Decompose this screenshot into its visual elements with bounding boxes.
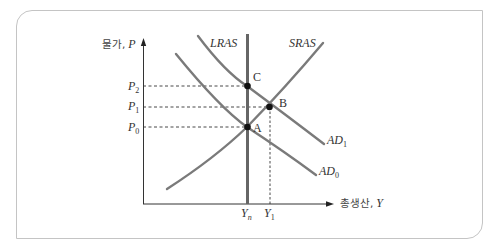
- point-b: [266, 104, 273, 111]
- ad1-label-base: AD: [326, 133, 343, 147]
- sras-label: SRAS: [289, 36, 316, 50]
- y-tick-p2-sub: 2: [135, 86, 139, 95]
- guide-lines: [143, 86, 270, 204]
- x-axis-label-korean: 총생산,: [340, 197, 373, 209]
- x-axis-label: 총생산,Y: [340, 196, 384, 210]
- y-axis-label-var: P: [127, 37, 136, 51]
- ad0-label-base: AD: [318, 164, 335, 178]
- ad0-label: AD0: [318, 164, 339, 180]
- y-tick-p1-sub: 1: [135, 106, 139, 115]
- y-axis-label-korean: 물가,: [102, 38, 125, 50]
- point-a-label: A: [253, 121, 262, 135]
- y-tick-p1: P1: [127, 99, 139, 115]
- y-axis-label: 물가,P: [102, 37, 136, 51]
- y-tick-p0-sub: 0: [135, 127, 139, 136]
- lras-label: LRAS: [209, 36, 237, 50]
- ad1-label-sub: 1: [343, 140, 347, 149]
- point-c-label: C: [253, 70, 261, 84]
- x-tick-y1: Y1: [264, 206, 275, 222]
- x-tick-yn-sub: n: [248, 213, 252, 222]
- point-a: [244, 124, 251, 131]
- ad-as-diagram: C B A LRAS SRAS AD1 AD0 물가,P P2 P1 P0 Yn…: [0, 0, 494, 252]
- y-tick-p2: P2: [127, 79, 139, 95]
- x-tick-y1-sub: 1: [271, 213, 275, 222]
- sras-curve: [167, 43, 323, 189]
- point-b-label: B: [279, 96, 287, 110]
- ad1-label: AD1: [326, 133, 347, 149]
- y-tick-p0: P0: [127, 120, 139, 136]
- ad0-label-sub: 0: [335, 171, 339, 180]
- point-c: [244, 83, 251, 90]
- x-axis-arrow-icon: [326, 201, 334, 206]
- x-tick-yn: Yn: [241, 206, 252, 222]
- x-axis-label-var: Y: [376, 196, 384, 210]
- y-axis-arrow-icon: [141, 38, 146, 46]
